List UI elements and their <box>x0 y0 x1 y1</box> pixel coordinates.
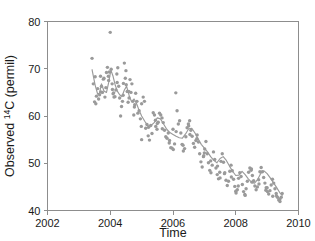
data-point <box>257 182 260 185</box>
data-point <box>262 176 265 179</box>
data-point <box>165 137 168 140</box>
data-point <box>188 119 191 122</box>
data-point <box>175 109 178 112</box>
data-point <box>226 184 229 187</box>
y-tick-label: 50 <box>28 157 40 169</box>
data-point <box>237 184 240 187</box>
data-point <box>222 161 225 164</box>
data-point <box>156 122 159 125</box>
data-point <box>123 61 126 64</box>
data-point <box>103 95 106 98</box>
data-point <box>132 113 135 116</box>
y-tick-label: 40 <box>28 205 40 217</box>
data-point <box>172 148 175 151</box>
data-point <box>141 95 144 98</box>
data-point <box>120 105 123 108</box>
figure-container: 4050607080 20022004200620082010 Time Obs… <box>0 0 315 241</box>
data-point <box>192 142 195 145</box>
data-point <box>244 187 247 190</box>
x-tick-label: 2002 <box>35 217 59 229</box>
data-point <box>119 114 122 117</box>
data-point <box>202 154 205 157</box>
data-point <box>150 132 153 135</box>
data-point <box>173 142 176 145</box>
data-point <box>97 97 100 100</box>
data-point <box>200 165 203 168</box>
data-point <box>134 92 137 95</box>
data-point <box>117 85 120 88</box>
x-tick-label: 2010 <box>286 217 310 229</box>
data-point <box>161 127 164 130</box>
data-point <box>250 167 253 170</box>
data-point <box>263 181 266 184</box>
data-point <box>233 185 236 188</box>
data-point <box>193 145 196 148</box>
data-point <box>234 189 237 192</box>
data-point <box>140 125 143 128</box>
data-point <box>216 164 219 167</box>
data-point <box>267 192 270 195</box>
data-point <box>118 96 121 99</box>
data-point <box>223 172 226 175</box>
data-point <box>95 94 98 97</box>
data-point <box>243 194 246 197</box>
data-point <box>174 130 177 133</box>
data-point <box>168 141 171 144</box>
data-point <box>90 57 93 60</box>
data-point <box>211 163 214 166</box>
data-point <box>251 174 254 177</box>
data-point <box>209 159 212 162</box>
data-point <box>239 175 242 178</box>
x-axis-title: Time <box>159 226 186 240</box>
data-point <box>230 175 233 178</box>
data-point <box>139 117 142 120</box>
data-point <box>271 195 274 198</box>
data-point <box>241 183 244 186</box>
data-point <box>126 101 129 104</box>
data-point <box>203 151 206 154</box>
y-tick-label: 80 <box>28 16 40 28</box>
data-point <box>115 81 118 84</box>
data-point <box>124 77 127 80</box>
data-point <box>116 66 119 69</box>
data-point <box>94 102 97 105</box>
data-point <box>209 171 212 174</box>
data-point <box>124 69 127 72</box>
data-point <box>212 150 215 153</box>
data-point <box>133 105 136 108</box>
data-point <box>268 189 271 192</box>
data-point <box>140 138 143 141</box>
data-point <box>153 113 156 116</box>
data-point <box>188 133 191 136</box>
data-point <box>221 152 224 155</box>
data-point <box>102 77 105 80</box>
data-point <box>177 122 180 125</box>
data-point <box>187 124 190 127</box>
y-tick-label: 70 <box>28 63 40 75</box>
data-point <box>115 72 118 75</box>
data-point <box>148 138 151 141</box>
data-point <box>246 180 249 183</box>
data-point <box>179 131 182 134</box>
data-point <box>278 197 281 200</box>
data-point <box>109 31 112 34</box>
data-point <box>204 140 207 143</box>
data-point <box>218 171 221 174</box>
data-point <box>216 173 219 176</box>
y-tick-label: 60 <box>28 110 40 122</box>
data-point <box>113 95 116 98</box>
data-point <box>259 166 262 169</box>
data-point <box>147 134 150 137</box>
data-point <box>111 88 114 91</box>
data-point <box>183 147 186 150</box>
data-point <box>218 176 221 179</box>
data-point <box>199 160 202 163</box>
data-point <box>265 186 268 189</box>
data-point <box>110 82 113 85</box>
data-point <box>121 100 124 103</box>
data-point <box>106 66 109 69</box>
data-point <box>178 119 181 122</box>
data-point <box>128 78 131 81</box>
x-tick-label: 2008 <box>224 217 248 229</box>
data-point <box>143 100 146 103</box>
